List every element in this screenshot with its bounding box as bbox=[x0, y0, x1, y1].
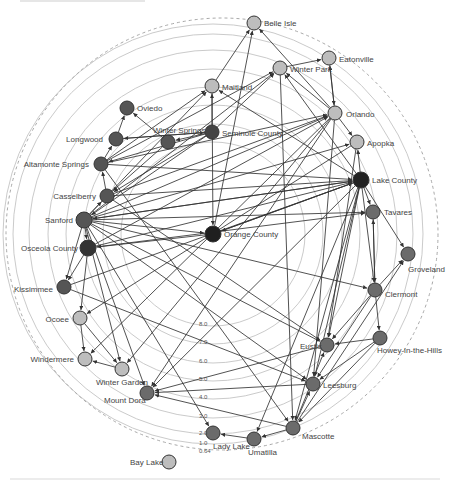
ring-label: 1.0 bbox=[199, 440, 208, 446]
edge-lake_county-to-mount_dora bbox=[153, 186, 356, 388]
edge-lake_county-to-apopka bbox=[358, 150, 360, 172]
edge-seminole_county-to-winter_park bbox=[217, 73, 274, 127]
edge-mascotte-to-umatilla bbox=[262, 430, 287, 437]
node-osceola-county[interactable]: Osceola County bbox=[21, 240, 96, 256]
edge-sanford-to-kissimmee bbox=[66, 228, 81, 280]
node-bay-lake[interactable]: Bay Lake bbox=[130, 455, 176, 469]
edge-mascotte-to-mount_dora bbox=[155, 395, 286, 427]
node-circle[interactable] bbox=[401, 247, 415, 261]
node-label: Winter Springs bbox=[153, 126, 205, 135]
node-label: Osceola County bbox=[21, 244, 78, 253]
node-tavares[interactable]: Tavares bbox=[366, 205, 412, 219]
node-altamonte-springs[interactable]: Altamonte Springs bbox=[24, 157, 108, 171]
node-casselberry[interactable]: Casselberry bbox=[53, 189, 114, 203]
node-circle[interactable] bbox=[80, 240, 96, 256]
ring-label: 4.0 bbox=[199, 394, 208, 400]
node-circle[interactable] bbox=[115, 362, 129, 376]
node-circle[interactable] bbox=[161, 135, 175, 149]
edge-casselberry-to-altamonte_springs bbox=[102, 172, 105, 189]
node-circle[interactable] bbox=[320, 338, 334, 352]
node-maitland[interactable]: Maitland bbox=[205, 79, 252, 93]
node-kissimmee[interactable]: Kissimmee bbox=[14, 280, 71, 294]
node-label: Windermere bbox=[30, 355, 74, 364]
node-label: Eustis bbox=[300, 342, 322, 351]
nodes-layer: Belle IsleEatonvilleWinter ParkMaitlandO… bbox=[14, 16, 445, 469]
node-longwood[interactable]: Longwood bbox=[66, 132, 123, 146]
node-circle[interactable] bbox=[350, 135, 364, 149]
node-circle[interactable] bbox=[76, 212, 92, 228]
node-leesburg[interactable]: Leesburg bbox=[306, 377, 356, 391]
node-sanford[interactable]: Sanford bbox=[45, 212, 92, 228]
ring-label: 0.64 bbox=[199, 448, 211, 454]
node-circle[interactable] bbox=[368, 283, 382, 297]
node-ocoee[interactable]: Ocoee bbox=[45, 311, 87, 325]
ring-label: 7.0 bbox=[199, 339, 208, 345]
node-circle[interactable] bbox=[286, 421, 300, 435]
node-circle[interactable] bbox=[373, 331, 387, 345]
edge-apopka-to-eustis bbox=[328, 149, 356, 337]
node-label: Orlando bbox=[346, 110, 375, 119]
node-circle[interactable] bbox=[205, 226, 221, 242]
node-label: Kissimmee bbox=[14, 285, 54, 294]
node-circle[interactable] bbox=[206, 426, 220, 440]
node-label: Lady Lake bbox=[213, 442, 250, 451]
node-label: Oviedo bbox=[137, 104, 163, 113]
ring-label: 5.0 bbox=[199, 376, 208, 382]
node-circle[interactable] bbox=[366, 205, 380, 219]
node-label: Orange County bbox=[224, 230, 278, 239]
node-circle[interactable] bbox=[306, 377, 320, 391]
node-belle-isle[interactable]: Belle Isle bbox=[247, 16, 297, 30]
node-circle[interactable] bbox=[109, 132, 123, 146]
edge-lake_county-to-umatilla bbox=[257, 187, 358, 431]
node-label: Bay Lake bbox=[130, 458, 164, 467]
node-label: Maitland bbox=[222, 83, 252, 92]
node-label: Howey-in-the-Hills bbox=[377, 346, 442, 355]
node-label: Mount Dora bbox=[104, 396, 146, 405]
node-label: Altamonte Springs bbox=[24, 160, 89, 169]
node-circle[interactable] bbox=[328, 106, 342, 120]
ring-label: 3.0 bbox=[199, 413, 208, 419]
node-circle[interactable] bbox=[57, 280, 71, 294]
edge-orlando-to-winter_park bbox=[286, 73, 329, 109]
node-clermont[interactable]: Clermont bbox=[368, 283, 418, 299]
node-circle[interactable] bbox=[247, 432, 261, 446]
node-howey[interactable]: Howey-in-the-Hills bbox=[373, 331, 442, 355]
node-circle[interactable] bbox=[94, 157, 108, 171]
node-circle[interactable] bbox=[78, 352, 92, 366]
edge-lake_county-to-eustis bbox=[329, 188, 360, 337]
edge-altamonte_springs-to-longwood bbox=[105, 146, 112, 158]
edge-maitland-to-orange_county bbox=[212, 93, 213, 225]
node-windermere[interactable]: Windermere bbox=[30, 352, 92, 366]
node-circle[interactable] bbox=[120, 101, 134, 115]
ring-label: 8.0 bbox=[199, 321, 208, 327]
edge-winter_park-to-mascotte bbox=[280, 75, 292, 420]
edge-clermont-to-eustis bbox=[332, 295, 370, 339]
node-label: Casselberry bbox=[53, 192, 96, 201]
node-mount-dora[interactable]: Mount Dora bbox=[104, 386, 154, 405]
node-circle[interactable] bbox=[273, 61, 287, 75]
node-label: Clermont bbox=[385, 290, 418, 299]
node-label: Ocoee bbox=[45, 315, 69, 324]
edge-casselberry-to-lake_county bbox=[114, 181, 352, 196]
node-circle[interactable] bbox=[73, 311, 87, 325]
edge-lake_county-to-winter_park bbox=[285, 74, 357, 173]
node-circle[interactable] bbox=[100, 189, 114, 203]
node-label: Groveland bbox=[408, 265, 445, 274]
node-circle[interactable] bbox=[205, 125, 219, 139]
radial-network-diagram: Belle IsleEatonvilleWinter ParkMaitlandO… bbox=[0, 0, 452, 484]
edge-osceola_county-to-kissimmee bbox=[68, 255, 84, 280]
node-groveland[interactable]: Groveland bbox=[401, 247, 445, 274]
node-oviedo[interactable]: Oviedo bbox=[120, 101, 163, 115]
node-label: Belle Isle bbox=[264, 19, 297, 28]
node-circle[interactable] bbox=[162, 455, 176, 469]
node-circle[interactable] bbox=[205, 79, 219, 93]
node-circle[interactable] bbox=[353, 172, 369, 188]
edge-osceola_county-to-ocoee bbox=[81, 256, 87, 310]
node-lady-lake[interactable]: Lady Lake bbox=[206, 426, 250, 451]
node-eatonville[interactable]: Eatonville bbox=[322, 51, 374, 65]
node-label: Apopka bbox=[367, 139, 395, 148]
edge-ocoee-to-windermere bbox=[81, 325, 84, 351]
node-circle[interactable] bbox=[322, 51, 336, 65]
node-circle[interactable] bbox=[247, 16, 261, 30]
node-label: Leesburg bbox=[323, 381, 356, 390]
